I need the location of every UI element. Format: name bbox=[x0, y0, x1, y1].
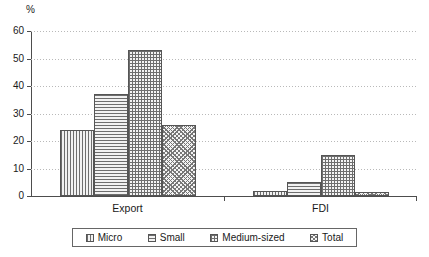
y-tick-label: 30 bbox=[13, 109, 24, 119]
y-tick-mark bbox=[27, 141, 31, 142]
legend-swatch-icon bbox=[86, 234, 94, 242]
legend-swatch-icon bbox=[148, 234, 156, 242]
gridline bbox=[31, 114, 417, 115]
legend-label: Micro bbox=[98, 232, 122, 243]
legend-label: Small bbox=[160, 232, 185, 243]
y-tick-mark bbox=[27, 196, 31, 197]
x-axis-label-fdi: FDI bbox=[312, 202, 329, 214]
legend-swatch-icon bbox=[210, 234, 218, 242]
y-tick-mark bbox=[27, 59, 31, 60]
legend-swatch-icon bbox=[310, 234, 318, 242]
y-tick-mark bbox=[27, 31, 31, 32]
chart-legend: MicroSmallMedium-sizedTotal bbox=[72, 228, 357, 247]
gridline bbox=[31, 86, 417, 87]
y-tick-label: 60 bbox=[13, 26, 24, 36]
x-axis-end-tick bbox=[416, 196, 417, 201]
bar-total-fdi bbox=[355, 192, 389, 196]
y-tick-mark bbox=[27, 169, 31, 170]
legend-item-total[interactable]: Total bbox=[310, 232, 343, 243]
y-tick-mark bbox=[27, 86, 31, 87]
x-axis-label-export: Export bbox=[112, 202, 142, 214]
y-tick-label: 0 bbox=[18, 191, 24, 201]
bar-total-export bbox=[162, 125, 196, 197]
bar-medium-sized-export bbox=[128, 50, 162, 196]
legend-item-small[interactable]: Small bbox=[148, 232, 185, 243]
y-tick-label: 40 bbox=[13, 81, 24, 91]
gridline bbox=[31, 31, 417, 32]
y-tick-label: 50 bbox=[13, 54, 24, 64]
bar-micro-export bbox=[60, 130, 94, 196]
group-separator-tick bbox=[224, 196, 225, 201]
legend-item-medium-sized[interactable]: Medium-sized bbox=[210, 232, 284, 243]
y-tick-mark bbox=[27, 114, 31, 115]
plot-area: 0102030405060 bbox=[31, 31, 417, 196]
bar-medium-sized-fdi bbox=[321, 155, 355, 196]
y-axis-unit-label: % bbox=[26, 4, 35, 15]
bar-chart: % 0102030405060 ExportFDI MicroSmallMedi… bbox=[0, 0, 429, 257]
y-tick-label: 10 bbox=[13, 164, 24, 174]
gridline bbox=[31, 59, 417, 60]
legend-item-micro[interactable]: Micro bbox=[86, 232, 122, 243]
bar-small-export bbox=[94, 94, 128, 196]
bar-small-fdi bbox=[287, 182, 321, 196]
legend-label: Medium-sized bbox=[222, 232, 284, 243]
legend-label: Total bbox=[322, 232, 343, 243]
bar-micro-fdi bbox=[253, 191, 287, 197]
y-tick-label: 20 bbox=[13, 136, 24, 146]
